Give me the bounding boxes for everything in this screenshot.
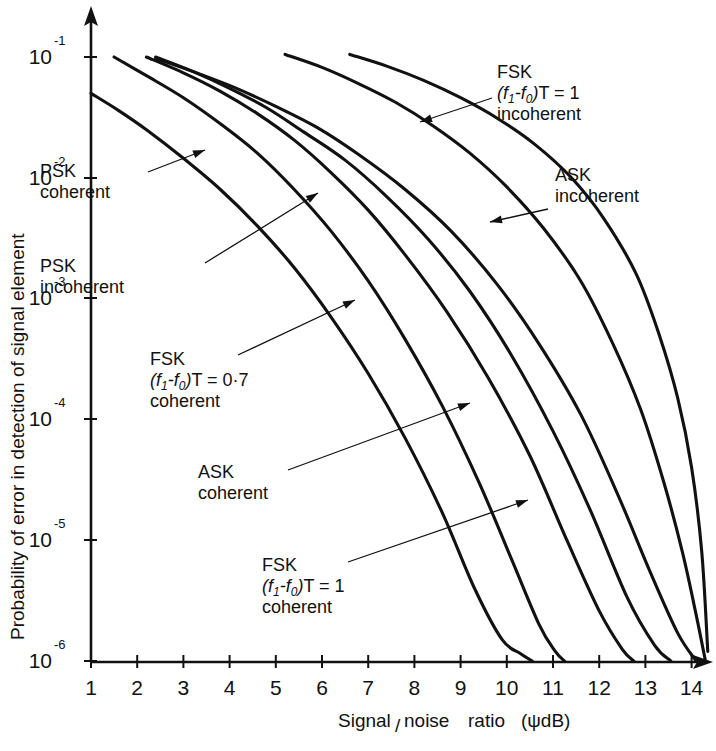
curve-ask-coherent xyxy=(156,57,671,661)
y-tick-label-mantissa-0: 10 xyxy=(29,45,52,68)
annotation-psk-coherent-line-0: PSK xyxy=(40,161,76,181)
leader-arrowhead-fsk-coh-07 xyxy=(342,300,355,309)
annotation-fsk-coh-07-line-1: (f1-f0)T = 0·7 xyxy=(150,370,249,393)
curve-fsk-coherent-f1-f0t-07 xyxy=(146,57,633,661)
annotation-fsk-incoh-1-line-1: (f1-f0)T = 1 xyxy=(497,83,580,106)
x-tick-label-5: 5 xyxy=(270,676,282,699)
y-tick-label-exponent-4: -5 xyxy=(54,516,66,531)
x-tick-label-6: 6 xyxy=(316,676,328,699)
leader-arrowhead-psk-incoherent xyxy=(306,193,318,203)
leader-arrowhead-ask-coherent xyxy=(457,403,470,411)
x-tick-label-11: 11 xyxy=(542,676,564,699)
x-tick-labels: 1234567891011121314 xyxy=(85,676,703,699)
annotation-psk-coherent-line-1: coherent xyxy=(40,182,110,202)
curve-ask-incoherent xyxy=(350,54,708,651)
x-tick-label-4: 4 xyxy=(224,676,236,699)
annotation-fsk-incoh-1-line-2: incoherent xyxy=(497,104,581,124)
y-tick-labels: 10 -1 10 -2 10 -3 10 -4 10 -5 10 -6 xyxy=(29,33,66,672)
x-tick-label-2: 2 xyxy=(131,676,143,699)
annotation-ask-incoherent-line-1: incoherent xyxy=(555,186,639,206)
leader-ask-coherent xyxy=(288,403,470,470)
x-axis-title-noise: noise xyxy=(404,710,449,731)
x-tick-label-9: 9 xyxy=(455,676,467,699)
leader-psk-incoherent xyxy=(205,193,318,263)
annotation-fsk-coh-07-line-0: FSK xyxy=(150,349,185,369)
x-axis-title-ratio: ratio xyxy=(468,710,505,731)
annotation-fsk-coh-1-line-1: (f1-f0)T = 1 xyxy=(262,576,345,599)
annotation-fsk-coh-07-line-2: coherent xyxy=(150,391,220,411)
x-tick-label-1: 1 xyxy=(85,676,97,699)
annotation-psk-incoherent-line-1: incoherent xyxy=(40,277,124,297)
x-tick-label-3: 3 xyxy=(178,676,190,699)
x-tick-label-14: 14 xyxy=(680,676,704,699)
leader-arrowhead-fsk-coh-1 xyxy=(515,500,528,508)
annotation-ask-incoherent-line-0: ASK xyxy=(555,165,591,185)
annotation-ask-coherent-line-0: ASK xyxy=(198,462,234,482)
x-tick-label-7: 7 xyxy=(362,676,374,699)
y-axis-title: Probability of error in detection of sig… xyxy=(7,233,28,640)
y-tick-label-mantissa-3: 10 xyxy=(29,407,52,430)
x-tick-label-8: 8 xyxy=(409,676,421,699)
y-tick-label-exponent-0: -1 xyxy=(54,33,66,48)
annotation-fsk-coh-1-line-0: FSK xyxy=(262,555,297,575)
x-tick-label-12: 12 xyxy=(588,676,611,699)
x-axis-title-units: (ψdB) xyxy=(521,710,570,731)
x-axis-title-slash: / xyxy=(395,715,401,736)
chart-container: 10 -1 10 -2 10 -3 10 -4 10 -5 10 -6 1234… xyxy=(0,0,716,751)
x-axis-title: Signal / noise ratio (ψdB) xyxy=(338,710,570,736)
y-tick-label-exponent-3: -4 xyxy=(54,395,66,410)
x-tick-label-10: 10 xyxy=(495,676,518,699)
leader-arrowhead-ask-incoherent xyxy=(490,215,503,223)
y-tick-label-exponent-5: -6 xyxy=(54,637,66,652)
leader-arrowhead-psk-coherent xyxy=(192,150,205,158)
y-tick-label-mantissa-5: 10 xyxy=(29,649,52,672)
annotation-fsk-incoh-1-line-0: FSK xyxy=(497,62,532,82)
annotation-psk-incoherent-line-0: PSK xyxy=(40,256,76,276)
annotation-fsk-coh-1-line-2: coherent xyxy=(262,597,332,617)
x-axis-title-signal: Signal xyxy=(338,710,391,731)
annotation-ask-coherent-line-1: coherent xyxy=(198,483,268,503)
x-tick-label-13: 13 xyxy=(634,676,657,699)
ber-vs-snr-chart: 10 -1 10 -2 10 -3 10 -4 10 -5 10 -6 1234… xyxy=(0,0,716,751)
series-annotations: PSKcoherentPSKincoherentFSK(f1-f0)T = 0·… xyxy=(40,62,639,617)
y-tick-label-mantissa-4: 10 xyxy=(29,528,52,551)
